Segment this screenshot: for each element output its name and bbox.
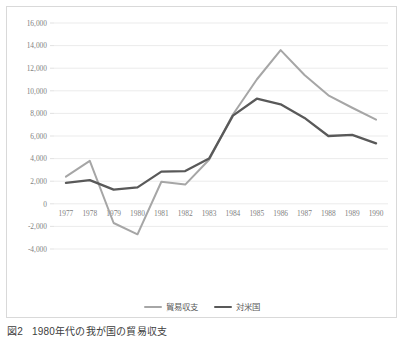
legend-label-us: 対米国 [236, 303, 260, 311]
chart-legend: 貿易収支 対米国 [0, 299, 403, 315]
figure-caption-number: 図2 [7, 326, 23, 337]
x-axis-tick-label: 1986 [273, 209, 288, 218]
x-axis-tick-label: 1980 [130, 209, 145, 218]
figure-caption-text: 1980年代の我が国の貿易収支 [32, 326, 167, 337]
x-axis-tick-label: 1990 [369, 209, 384, 218]
x-axis-tick-label: 1978 [82, 209, 97, 218]
x-axis-tick-label: 1989 [345, 209, 360, 218]
x-axis-tick-label: 1987 [297, 209, 312, 218]
y-axis-tick-label: 4,000 [30, 154, 47, 163]
y-axis-tick-label: 16,000 [27, 19, 48, 28]
x-axis-tick-label: 1983 [202, 209, 217, 218]
figure-container: 16,00014,00012,00010,0008,0006,0004,0002… [0, 0, 403, 340]
figure-caption: 図21980年代の我が国の貿易収支 [7, 323, 397, 338]
y-axis-tick-label: -2,000 [28, 222, 47, 231]
x-axis-tick-label: 1982 [178, 209, 193, 218]
x-axis-tick-label: 1984 [226, 209, 241, 218]
x-axis-tick-label: 1985 [249, 209, 264, 218]
y-axis-tick-label: 14,000 [27, 41, 48, 50]
y-axis-tick-label: 6,000 [30, 132, 47, 141]
y-axis-tick-label: 12,000 [27, 64, 48, 73]
x-axis-tick-label: 1988 [321, 209, 336, 218]
y-axis-tick-label: 0 [43, 200, 47, 209]
x-axis-tick-label: 1977 [59, 209, 74, 218]
series-line-us [66, 99, 376, 190]
x-axis-tick-label: 1981 [154, 209, 169, 218]
legend-item-us: 対米国 [214, 303, 260, 311]
legend-item-trade-balance: 貿易収支 [144, 303, 198, 311]
legend-swatch-trade-balance [144, 306, 162, 309]
y-axis-tick-label: 10,000 [27, 87, 48, 96]
series-line-trade-balance [66, 50, 376, 234]
line-chart: 16,00014,00012,00010,0008,0006,0004,0002… [7, 7, 396, 317]
legend-label-trade-balance: 貿易収支 [166, 303, 198, 311]
chart-plot-frame: 16,00014,00012,00010,0008,0006,0004,0002… [6, 6, 397, 318]
y-axis-tick-label: 8,000 [30, 109, 47, 118]
y-axis-tick-label: -4,000 [28, 245, 47, 254]
y-axis-tick-label: 2,000 [30, 177, 47, 186]
legend-swatch-us [214, 306, 232, 309]
